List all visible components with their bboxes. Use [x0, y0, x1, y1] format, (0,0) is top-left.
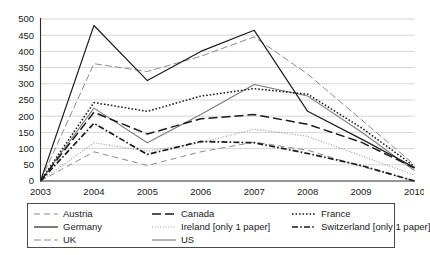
legend-swatch-dashed	[33, 209, 59, 219]
legend-item-switzerland-only-1-paper[interactable]: Switzerland [only 1 paper]	[291, 220, 430, 233]
x-axis-tick-label: 2006	[190, 186, 211, 197]
legend-item-label: Canada	[181, 207, 214, 220]
legend-item-uk[interactable]: UK	[33, 233, 151, 246]
legend-swatch-medium-dash	[33, 235, 59, 245]
x-axis-tick-labels: 20032004200520062007200820092010	[30, 186, 424, 197]
x-axis-tick-label: 2004	[83, 186, 104, 197]
legend-item-ireland-only-1-paper[interactable]: Ireland [only 1 paper]	[151, 220, 291, 233]
y-axis-tick-label: 50	[23, 159, 34, 170]
y-axis-tick-labels: 050100150200250300350400450500	[18, 13, 34, 186]
legend-item-canada[interactable]: Canada	[151, 207, 291, 220]
x-axis-tick-label: 2009	[351, 186, 372, 197]
legend-item-label: Austria	[63, 207, 93, 220]
y-axis-tick-label: 400	[18, 46, 34, 57]
legend-item-label: France	[321, 207, 351, 220]
x-axis-tick-label: 2005	[137, 186, 158, 197]
legend-item-label: Germany	[63, 220, 102, 233]
series-line-us	[41, 84, 415, 181]
y-axis-tick-label: 200	[18, 111, 34, 122]
y-axis-tick-label: 150	[18, 127, 34, 138]
legend-item-label: US	[181, 233, 194, 246]
legend-item-label: Ireland [only 1 paper]	[181, 220, 270, 233]
legend-item-france[interactable]: France	[291, 207, 430, 220]
legend-swatch-dotted	[291, 209, 317, 219]
series-line-uk	[41, 37, 415, 181]
series-line-austria	[41, 142, 415, 181]
y-axis-tick-label: 250	[18, 94, 34, 105]
y-axis-tick-label: 300	[18, 78, 34, 89]
x-axis-tick-label: 2007	[244, 186, 265, 197]
chart-canvas: 050100150200250300350400450500 200320042…	[0, 0, 424, 196]
x-axis-tick-label: 2008	[297, 186, 318, 197]
legend-item-austria[interactable]: Austria	[33, 207, 151, 220]
chart-legend: AustriaCanadaFranceGermanyIreland [only …	[27, 203, 395, 248]
legend-item-label: Switzerland [only 1 paper]	[321, 220, 430, 233]
x-axis-tick-label: 2003	[30, 186, 51, 197]
series-line-germany	[41, 25, 415, 181]
y-axis-tick-label: 350	[18, 62, 34, 73]
legend-item-label: UK	[63, 233, 76, 246]
legend-item-germany[interactable]: Germany	[33, 220, 151, 233]
legend-swatch-solid-gray	[151, 235, 177, 245]
y-axis-tick-label: 500	[18, 13, 34, 24]
series-line-canada	[41, 112, 415, 181]
legend-grid: AustriaCanadaFranceGermanyIreland [only …	[33, 207, 390, 246]
y-axis-tick-label: 450	[18, 30, 34, 41]
y-axis-tick-label: 100	[18, 143, 34, 154]
series-lines	[41, 25, 415, 181]
legend-swatch-dash-dot	[291, 222, 317, 232]
x-axis-tick-label: 2010	[404, 186, 424, 197]
series-line-france	[41, 89, 415, 181]
legend-swatch-fine-dotted	[151, 222, 177, 232]
plot-area: 050100150200250300350400450500 200320042…	[0, 0, 424, 196]
legend-item-us[interactable]: US	[151, 233, 291, 246]
legend-swatch-long-dash	[151, 209, 177, 219]
legend-swatch-solid	[33, 222, 59, 232]
